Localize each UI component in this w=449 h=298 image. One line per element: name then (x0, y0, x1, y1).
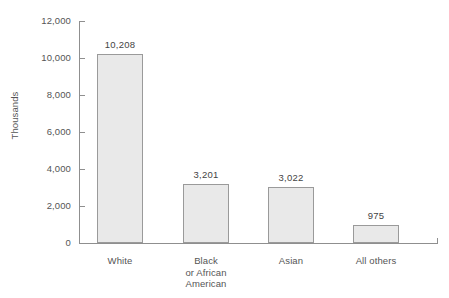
x-axis-category-label-line: Asian (245, 255, 337, 267)
bar-value-label: 3,022 (245, 172, 337, 183)
bar-value-label: 10,208 (74, 39, 166, 50)
bar-value-label: 3,201 (160, 169, 252, 180)
x-axis-category-label-line: Black (160, 255, 252, 267)
bar (268, 187, 314, 243)
x-axis-category-label-line: or African (160, 267, 252, 279)
plot-area: 10,208White3,201Blackor AfricanAmerican3… (0, 0, 449, 298)
x-axis-category-label: All others (330, 255, 422, 267)
bar-value-label: 975 (330, 210, 422, 221)
bar (97, 54, 143, 243)
x-axis-category-label: Blackor AfricanAmerican (160, 255, 252, 290)
x-axis-category-label-line: White (74, 255, 166, 267)
x-axis-category-label-line: American (160, 278, 252, 290)
x-axis-category-label-line: All others (330, 255, 422, 267)
x-axis-category-label: White (74, 255, 166, 267)
bar (353, 225, 399, 243)
bar-chart: Thousands 02,0004,0006,0008,00010,00012,… (0, 0, 449, 298)
x-axis-category-label: Asian (245, 255, 337, 267)
bar (183, 184, 229, 243)
